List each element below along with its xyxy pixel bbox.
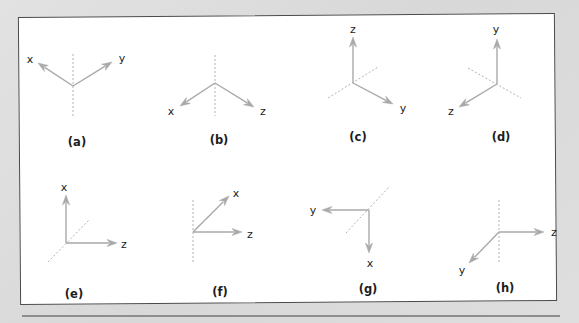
axis-label-x: x [168, 105, 175, 118]
panel-caption: (d) [492, 130, 511, 144]
axis-y-line [475, 232, 499, 257]
axes-diagram-h: zy(h) [459, 200, 557, 295]
axes-diagram-d: yz(d) [448, 23, 521, 144]
axis-x-line [45, 67, 73, 86]
axes-diagram-g: yx(g) [310, 186, 390, 296]
axis-z-line [215, 83, 247, 103]
panel-caption: (h) [496, 281, 515, 295]
dashed-reference-axis [48, 220, 89, 262]
axis-y-line [73, 66, 105, 86]
panel-caption: (e) [65, 287, 83, 301]
axis-z-line [466, 84, 497, 103]
arrowhead-icon [180, 98, 190, 107]
axis-label-z: z [551, 226, 557, 239]
panel-caption: (f) [212, 285, 228, 299]
axis-label-z: z [121, 238, 127, 251]
axes-diagram-a: xy(a) [27, 52, 126, 149]
axis-label-x: x [61, 181, 68, 194]
axis-label-y: y [310, 204, 317, 217]
axis-label-y: y [459, 264, 466, 277]
axis-x-line [193, 202, 223, 232]
panel-caption: (c) [349, 130, 366, 144]
dashed-reference-axis [468, 68, 521, 98]
axes-diagram-c: zy(c) [328, 23, 407, 144]
axis-label-z: z [247, 228, 253, 241]
arrowhead-icon [38, 63, 48, 72]
axis-label-y: y [493, 23, 500, 36]
axes-diagram-f: xz(f) [193, 187, 253, 299]
axis-label-x: x [367, 257, 374, 270]
axis-label-z: z [260, 105, 266, 118]
axis-label-z: z [448, 105, 454, 118]
coordinate-axes-figure: xy(a)xz(b)zy(c)yz(d)xz(e)xz(f)yx(g)zy(h) [0, 0, 579, 323]
panel-caption: (a) [68, 135, 86, 149]
axis-x-line [187, 83, 215, 102]
arrowhead-icon [244, 99, 254, 107]
axis-label-z: z [350, 23, 356, 36]
axis-label-y: y [119, 52, 126, 65]
axis-y-line [353, 83, 386, 100]
arrowhead-icon [102, 62, 112, 70]
panel-caption: (g) [359, 282, 378, 296]
axes-diagram-e: xz(e) [48, 181, 127, 301]
axis-label-y: y [400, 102, 407, 115]
axis-label-x: x [233, 187, 240, 200]
arrowhead-icon [459, 99, 469, 107]
axes-diagram-b: xz(b) [168, 55, 266, 147]
panel-caption: (b) [210, 133, 229, 147]
axis-label-x: x [27, 53, 34, 66]
